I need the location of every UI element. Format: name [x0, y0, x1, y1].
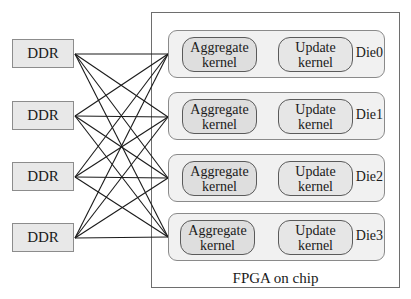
ddr-node-3: DDR	[12, 223, 74, 252]
kernel-label-line2: kernel	[298, 117, 333, 132]
kernel-label-line2: kernel	[202, 55, 237, 70]
die-0: Aggregate kernel Update kernel Die0	[168, 30, 385, 78]
kernel-label-line1: Update	[295, 40, 335, 55]
die-label: Die2	[356, 169, 383, 185]
fpga-on-chip-label: FPGA on chip	[151, 270, 400, 287]
kernel-label-line2: kernel	[298, 238, 333, 253]
update-kernel: Update kernel	[278, 161, 353, 196]
ddr-node-0: DDR	[12, 39, 74, 68]
kernel-label-line1: Update	[295, 102, 335, 117]
ddr-node-1: DDR	[12, 101, 74, 130]
aggregate-kernel: Aggregate kernel	[180, 220, 255, 255]
ddr-label: DDR	[27, 168, 59, 185]
aggregate-kernel: Aggregate kernel	[182, 99, 257, 134]
kernel-label-line1: Update	[295, 223, 335, 238]
kernel-label-line2: kernel	[200, 238, 235, 253]
ddr-node-2: DDR	[12, 162, 74, 191]
kernel-label-line1: Update	[295, 164, 335, 179]
aggregate-kernel: Aggregate kernel	[182, 37, 257, 72]
die-label: Die0	[356, 45, 383, 61]
ddr-label: DDR	[27, 45, 59, 62]
die-3: Aggregate kernel Update kernel Die3	[168, 213, 385, 261]
die-label: Die3	[356, 228, 383, 244]
kernel-label-line1: Aggregate	[190, 40, 248, 55]
fpga-ddr-diagram: DDR DDR DDR DDR Aggregate kernel Update …	[0, 0, 411, 299]
update-kernel: Update kernel	[278, 37, 353, 72]
die-label: Die1	[356, 107, 383, 123]
kernel-label-line1: Aggregate	[188, 223, 246, 238]
kernel-label-line2: kernel	[202, 117, 237, 132]
kernel-label-line1: Aggregate	[190, 164, 248, 179]
aggregate-kernel: Aggregate kernel	[182, 161, 257, 196]
ddr-label: DDR	[27, 107, 59, 124]
kernel-label-line2: kernel	[298, 55, 333, 70]
die-2: Aggregate kernel Update kernel Die2	[168, 154, 385, 202]
kernel-label-line1: Aggregate	[190, 102, 248, 117]
die-1: Aggregate kernel Update kernel Die1	[168, 92, 385, 140]
kernel-label-line2: kernel	[202, 179, 237, 194]
kernel-label-line2: kernel	[298, 179, 333, 194]
update-kernel: Update kernel	[278, 220, 353, 255]
ddr-label: DDR	[27, 229, 59, 246]
update-kernel: Update kernel	[278, 99, 353, 134]
